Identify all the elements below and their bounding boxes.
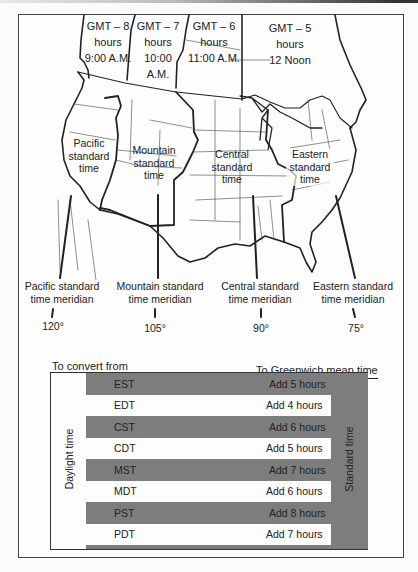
meridian-label-line: Mountain standard	[115, 280, 205, 293]
zone-name-line: Eastern	[286, 148, 334, 161]
meridian-degree-90: 90°	[246, 322, 276, 335]
zone-name-line: standard	[128, 157, 180, 170]
zone-name-line: time	[128, 169, 180, 182]
zone-name-eastern: Eastern standard time	[286, 148, 334, 186]
meridian-label-line: time meridian	[310, 293, 396, 306]
zone-code: PDT	[114, 524, 135, 545]
canada-east-edge	[335, 15, 366, 128]
zone-name-mountain: Mountain standard time	[128, 144, 180, 182]
meridian-line-eastern	[336, 196, 355, 278]
zone-name-line: time	[65, 162, 113, 175]
table-row-edt: EDT Add 4 hours	[86, 395, 331, 416]
meridian-label-line: time meridian	[20, 293, 104, 306]
gmt-unit: hours	[186, 34, 242, 50]
zone-gmt-label-central: GMT – 6 hours 11:00 A.M.	[186, 18, 242, 66]
gmt-offset: GMT – 8	[83, 18, 133, 34]
gmt-conversion: Add 4 hours	[266, 395, 386, 416]
meridian-degree-75: 75°	[341, 322, 371, 335]
zone-name-line: Central	[208, 148, 256, 161]
table-row-mdt: MDT Add 6 hours	[86, 481, 331, 502]
daylight-time-label: Daylight time	[63, 419, 75, 499]
zone-code: CST	[114, 417, 135, 438]
zone-gmt-label-mountain: GMT – 7 hours 10:00 A.M.	[132, 18, 184, 82]
meridian-label-mountain: Mountain standard time meridian	[115, 280, 205, 305]
zone-name-line: standard	[208, 161, 256, 174]
zone-name-line: time	[286, 173, 334, 186]
zone-code: MST	[114, 460, 136, 481]
meridian-degree-120: 120°	[38, 320, 68, 333]
gmt-conversion: Add 5 hours	[269, 374, 389, 395]
meridian-label-line: time meridian	[218, 293, 302, 306]
gmt-offset: GMT – 5	[265, 20, 315, 36]
zone-gmt-label-pacific: GMT – 8 hours 9:00 A.M.	[83, 18, 133, 66]
meridian-line-pacific	[60, 196, 71, 278]
meridian-label-line: Central standard	[218, 280, 302, 293]
gmt-clock-time: 11:00 A.M.	[186, 50, 242, 66]
table-row-pst: PST Add 8 hours	[86, 503, 368, 524]
zone-name-line: Mountain	[128, 144, 180, 157]
gmt-unit: hours	[265, 36, 315, 52]
gmt-conversion: Add 5 hours	[266, 438, 386, 459]
tick-75	[353, 309, 355, 317]
meridian-label-line: Eastern standard	[310, 280, 396, 293]
meridian-label-line: Pacific standard	[20, 280, 104, 293]
meridian-label-pacific: Pacific standard time meridian	[20, 280, 104, 305]
table-row-cdt: CDT Add 5 hours	[86, 438, 331, 459]
zone-name-line: standard	[65, 150, 113, 163]
gmt-offset: GMT – 6	[186, 18, 242, 34]
gmt-clock-time: 12 Noon	[265, 52, 315, 68]
conversion-table: EST Add 5 hours EDT Add 4 hours CST Add …	[50, 372, 368, 550]
zone-code: EDT	[114, 395, 135, 416]
meridian-line-central	[253, 196, 257, 278]
zone-name-line: Pacific	[65, 137, 113, 150]
gmt-unit: hours	[83, 34, 133, 50]
meridian-label-central: Central standard time meridian	[218, 280, 302, 305]
zone-name-central: Central standard time	[208, 148, 256, 186]
zone-gmt-label-eastern: GMT – 5 hours 12 Noon	[265, 20, 315, 68]
table-row-cst: CST Add 6 hours	[86, 417, 368, 438]
gmt-clock-time: 10:00 A.M.	[132, 50, 184, 82]
table-row-est: EST Add 5 hours	[86, 374, 368, 395]
zone-code: CDT	[114, 438, 136, 459]
standard-time-label: Standard time	[343, 419, 355, 499]
gmt-conversion: Add 7 hours	[266, 524, 386, 545]
table-row-mst: MST Add 7 hours	[86, 460, 368, 481]
great-lakes	[240, 96, 322, 150]
gmt-conversion: Add 7 hours	[269, 460, 389, 481]
gmt-conversion: Add 6 hours	[269, 417, 389, 438]
gmt-offset: GMT – 7	[132, 18, 184, 34]
meridian-label-line: time meridian	[115, 293, 205, 306]
gmt-clock-time: 9:00 A.M.	[83, 50, 133, 66]
gmt-conversion: Add 6 hours	[266, 481, 386, 502]
zone-name-pacific: Pacific standard time	[65, 137, 113, 175]
zone-code: PST	[114, 503, 134, 524]
meridian-degree-105: 105°	[140, 322, 170, 335]
zone-code: EST	[114, 374, 134, 395]
meridian-label-eastern: Eastern standard time meridian	[310, 280, 396, 305]
zone-code: MDT	[114, 481, 137, 502]
gmt-unit: hours	[132, 34, 184, 50]
zone-name-line: standard	[286, 161, 334, 174]
tick-120	[52, 309, 53, 317]
table-row-pdt: PDT Add 7 hours	[86, 524, 331, 545]
gmt-conversion: Add 8 hours	[269, 503, 389, 524]
zone-name-line: time	[208, 173, 256, 186]
